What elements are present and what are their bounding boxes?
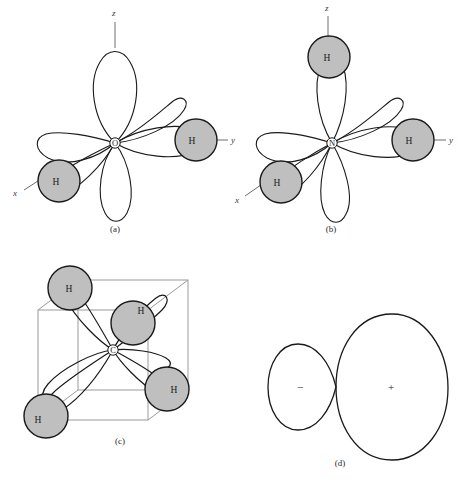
axis-label-x: x: [12, 188, 17, 198]
orbital-sign-positive: +: [388, 381, 394, 393]
hydrogen-atom-upper-left-c: H: [48, 266, 92, 310]
center-atom-carbon: C: [108, 345, 118, 355]
atom-label-h: H: [35, 415, 42, 425]
panel-a-water: z y x: [0, 0, 231, 230]
axis-label-x: x: [234, 195, 239, 205]
axis-z-a: z: [111, 8, 116, 48]
panel-caption-c: (c): [100, 436, 140, 446]
hydrogen-atom-right-b: H: [392, 119, 434, 161]
hydrogen-atom-lower-left-c: H: [24, 394, 68, 438]
panel-d-hybrid-orbital: − + (d): [252, 290, 462, 482]
hydrogen-atom-left-b: H: [260, 161, 302, 203]
center-atom-label: N: [329, 138, 335, 148]
axis-z-b: z: [324, 3, 329, 38]
panel-d-svg: − +: [252, 290, 462, 482]
orbital-sign-negative: −: [297, 381, 303, 393]
hydrogen-atom-lower-right-c: H: [145, 367, 189, 411]
axis-label-y: y: [448, 135, 453, 145]
hydrogen-atom-upper-right-c: H: [111, 301, 155, 345]
center-atom-label: C: [110, 345, 116, 355]
hydrogen-atom-left-a: H: [38, 160, 80, 202]
panel-a-svg: z y x: [0, 0, 231, 230]
atom-label-h: H: [66, 284, 73, 294]
atom-label-h: H: [189, 136, 196, 146]
center-atom-nitrogen: N: [327, 138, 337, 148]
center-atom-label: O: [112, 138, 118, 148]
panel-caption-d: (d): [320, 458, 360, 468]
atom-label-h: H: [53, 177, 60, 187]
panel-c-svg: H H H H C: [10, 248, 250, 482]
center-atom-oxygen: O: [110, 138, 120, 148]
atom-label-h: H: [171, 385, 178, 395]
axis-label-z: z: [324, 3, 329, 13]
panel-caption-a: (a): [95, 224, 135, 234]
panel-b-ammonia: z y x: [231, 0, 462, 230]
atom-label-h: H: [274, 178, 281, 188]
hydrogen-atom-top-b: H: [308, 36, 350, 78]
axis-label-z: z: [111, 8, 116, 18]
panel-c-methane: H H H H C (c): [10, 248, 250, 482]
panel-caption-b: (b): [311, 224, 351, 234]
atom-label-h: H: [138, 306, 145, 316]
atom-label-h: H: [406, 136, 413, 146]
panel-b-svg: z y x: [231, 0, 462, 230]
atom-label-h: H: [324, 53, 331, 63]
figure-root: z y x: [0, 0, 462, 482]
hydrogen-atom-right-a: H: [175, 119, 217, 161]
